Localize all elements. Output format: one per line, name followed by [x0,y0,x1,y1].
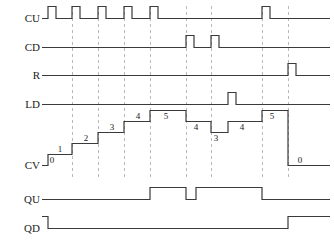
waveform-cd [42,36,330,48]
timing-diagram: CUCDRLDQUQDCV 01234543450 [0,0,334,243]
waveform-qd [42,217,330,229]
signal-label-cu: CU [25,12,40,24]
signal-label-qd: QD [24,222,40,234]
cv-step-value: 3 [110,122,115,132]
cv-step-value: 3 [214,133,219,143]
cv-step-value: 5 [164,111,169,121]
cv-step-value: 5 [270,111,275,121]
signal-label-qu: QU [24,193,40,205]
signal-label-cd: CD [25,41,40,53]
cv-step-value: 1 [58,144,63,154]
cv-step-value: 2 [84,133,89,143]
cv-step-value: 0 [50,155,55,165]
gridlines-group [73,6,289,178]
signal-label-ld: LD [25,98,40,110]
timing-diagram-canvas: CUCDRLDQUQDCV 01234543450 [0,0,334,243]
signal-label-cv: CV [25,159,40,171]
counter-value-numbers: 01234543450 [50,111,303,165]
waveform-qu [42,188,330,200]
signal-labels-group: CUCDRLDQUQDCV [24,12,41,234]
cv-step-value: 0 [298,155,303,165]
cv-step-value: 4 [136,111,141,121]
signal-label-r: R [33,69,41,81]
cv-step-value: 4 [240,122,245,132]
cv-step-value: 4 [194,122,199,132]
